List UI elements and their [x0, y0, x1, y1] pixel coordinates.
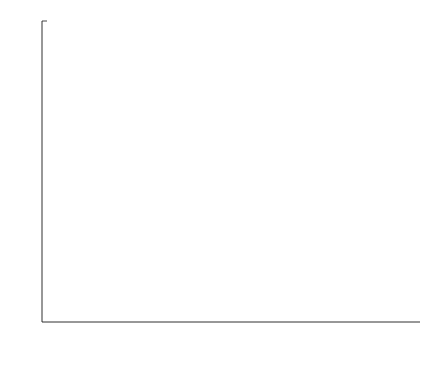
chart-background	[0, 0, 437, 365]
error-rate-chart	[0, 0, 437, 365]
